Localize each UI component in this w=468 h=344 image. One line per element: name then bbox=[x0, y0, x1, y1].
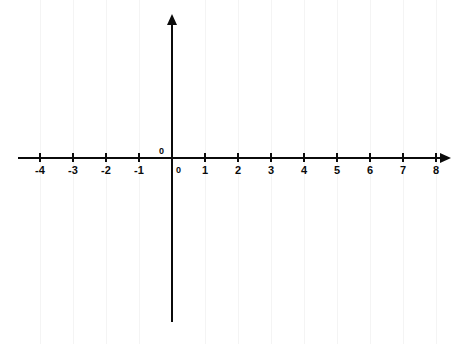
coordinate-plane-figure: -4-3-2-1012345678806040200-20-40-60-80 bbox=[0, 0, 468, 344]
x-axis-tick-label: 2 bbox=[224, 165, 252, 176]
x-axis-tick-label: 1 bbox=[191, 165, 219, 176]
x-axis-tick-label: 3 bbox=[257, 165, 285, 176]
x-axis-tick-label: 4 bbox=[290, 165, 318, 176]
x-axis-tick-label: -2 bbox=[92, 165, 120, 176]
x-axis-tick-label: -4 bbox=[26, 165, 54, 176]
x-axis-tick-label: 8 bbox=[422, 165, 450, 176]
origin-label: 0 bbox=[176, 166, 181, 175]
tick-labels: -4-3-2-1012345678806040200-20-40-60-80 bbox=[0, 0, 468, 344]
x-axis-tick-label: -3 bbox=[59, 165, 87, 176]
y-axis-tick-label: 0 bbox=[110, 147, 164, 156]
x-axis-tick-label: 7 bbox=[389, 165, 417, 176]
x-axis-tick-label: 6 bbox=[356, 165, 384, 176]
x-axis-tick-label: -1 bbox=[125, 165, 153, 176]
x-axis-tick-label: 5 bbox=[323, 165, 351, 176]
